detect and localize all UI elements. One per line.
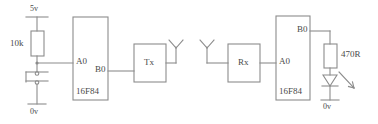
rx-antenna-arm-left — [200, 40, 207, 48]
chip-label-tx: 16F84 — [76, 87, 99, 96]
led-emission-arrow-shaft — [339, 72, 354, 88]
resistor-470r-label: 470R — [341, 50, 361, 59]
tx-module-label: Tx — [144, 58, 154, 67]
pin-label-b0-tx: B0 — [95, 65, 106, 74]
tx-antenna-arm-right — [176, 40, 183, 48]
circuit-diagram-canvas: 5v 10k 0v A0 B0 16F84 Tx Rx B0 A0 16F84 … — [0, 0, 378, 124]
supply-label-tx: 5v — [30, 5, 38, 13]
tx-antenna-arm-left — [169, 40, 176, 48]
pin-label-a0-rx: A0 — [279, 57, 290, 66]
ground-label-tx: 0v — [30, 108, 38, 116]
led-triangle — [323, 75, 337, 86]
resistor-10k-label: 10k — [10, 39, 24, 48]
chip-label-rx: 16F84 — [279, 87, 302, 96]
rx-module-label: Rx — [238, 58, 249, 67]
pin-label-b0-rx: B0 — [297, 25, 308, 34]
rx-antenna-arm-right — [207, 40, 214, 48]
schematic-svg — [0, 0, 378, 124]
resistor-10k-body — [31, 31, 44, 56]
ground-label-rx: 0v — [323, 103, 331, 111]
pin-label-a0-tx: A0 — [76, 57, 87, 66]
resistor-470r-body — [324, 44, 337, 68]
